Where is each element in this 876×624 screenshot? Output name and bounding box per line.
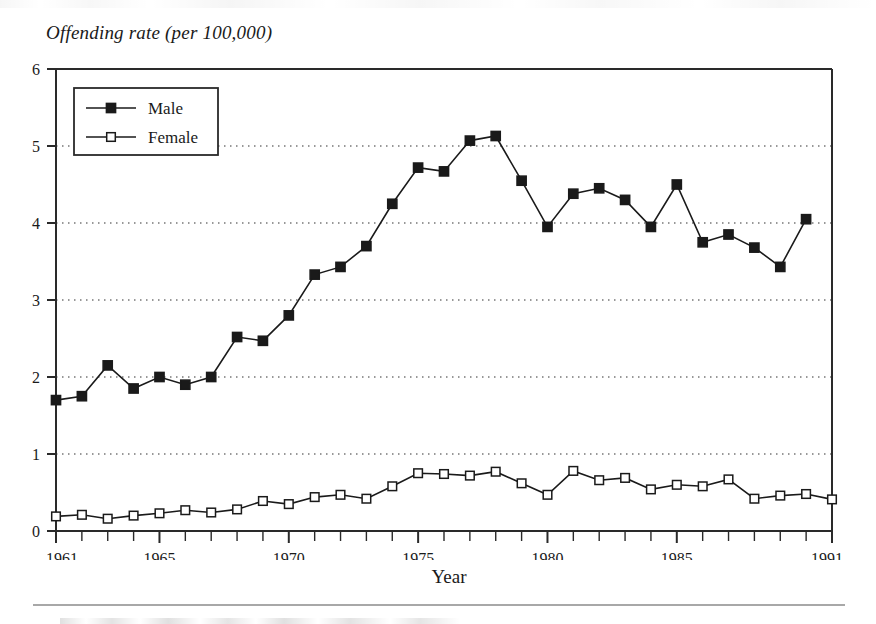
x-tick-label-1975: 1975 xyxy=(402,550,434,560)
datapoint-male-1967 xyxy=(207,372,216,381)
datapoint-female-1977 xyxy=(466,471,475,480)
datapoint-female-1975 xyxy=(414,469,423,478)
datapoint-male-1989 xyxy=(776,262,785,271)
datapoint-male-1978 xyxy=(491,131,500,140)
datapoint-female-1973 xyxy=(362,494,371,503)
series-line-male xyxy=(56,136,806,400)
x-axis-title-label: Year xyxy=(409,566,466,587)
datapoint-male-1988 xyxy=(750,243,759,252)
datapoint-female-1968 xyxy=(233,505,242,514)
x-tick-label-1965: 1965 xyxy=(143,550,175,560)
datapoint-female-1969 xyxy=(259,497,268,506)
x-axis-ticks: 1961196519701975198019851991 xyxy=(46,531,843,560)
datapoint-female-1962 xyxy=(78,511,87,520)
x-tick-label-1961: 1961 xyxy=(46,550,78,560)
legend-label-male: Male xyxy=(148,99,183,118)
datapoint-male-1986 xyxy=(698,238,707,247)
datapoint-female-1965 xyxy=(155,509,164,518)
datapoint-female-1989 xyxy=(776,491,785,500)
datapoint-male-1968 xyxy=(233,332,242,341)
datapoint-male-1969 xyxy=(258,336,267,345)
datapoint-male-1982 xyxy=(595,184,604,193)
data-series-layer xyxy=(51,131,836,523)
chart-legend: MaleFemale xyxy=(74,88,218,155)
datapoint-male-1963 xyxy=(103,361,112,370)
datapoint-male-1966 xyxy=(181,380,190,389)
datapoint-male-1977 xyxy=(465,136,474,145)
scan-artifact-bottom xyxy=(60,618,460,624)
datapoint-female-1979 xyxy=(517,479,526,488)
datapoint-male-1973 xyxy=(362,242,371,251)
datapoint-male-1964 xyxy=(129,384,138,393)
x-tick-label-1991: 1991 xyxy=(811,550,843,560)
footer-divider xyxy=(33,604,845,606)
datapoint-female-1970 xyxy=(285,500,294,509)
datapoint-female-1974 xyxy=(388,482,397,491)
datapoint-female-1976 xyxy=(440,470,449,479)
datapoint-male-1962 xyxy=(77,392,86,401)
datapoint-female-1988 xyxy=(750,494,759,503)
y-tick-label-5: 5 xyxy=(32,138,40,155)
y-tick-label-3: 3 xyxy=(32,292,40,309)
offending-rate-line-chart: 0123456 1961196519701975198019851991 Mal… xyxy=(0,0,876,560)
datapoint-female-1990 xyxy=(802,490,811,499)
datapoint-female-1987 xyxy=(724,475,733,484)
datapoint-male-1975 xyxy=(414,163,423,172)
y-tick-label-2: 2 xyxy=(32,369,40,386)
datapoint-female-1964 xyxy=(129,511,138,520)
legend-marker-male xyxy=(106,103,115,112)
datapoint-male-1980 xyxy=(543,222,552,231)
y-tick-label-0: 0 xyxy=(32,523,40,540)
datapoint-male-1984 xyxy=(646,222,655,231)
x-tick-label-1985: 1985 xyxy=(661,550,693,560)
datapoint-male-1965 xyxy=(155,372,164,381)
y-tick-label-4: 4 xyxy=(32,215,40,232)
datapoint-female-1971 xyxy=(310,493,319,502)
datapoint-male-1985 xyxy=(672,180,681,189)
datapoint-female-1980 xyxy=(543,491,552,500)
x-tick-label-1970: 1970 xyxy=(273,550,305,560)
datapoint-female-1991 xyxy=(828,495,837,504)
datapoint-male-1987 xyxy=(724,230,733,239)
datapoint-female-1978 xyxy=(491,467,500,476)
datapoint-male-1970 xyxy=(284,311,293,320)
datapoint-female-1966 xyxy=(181,506,190,515)
legend-label-female: Female xyxy=(148,128,198,147)
datapoint-female-1984 xyxy=(647,485,656,494)
datapoint-female-1986 xyxy=(698,482,707,491)
datapoint-female-1963 xyxy=(103,514,112,523)
datapoint-male-1972 xyxy=(336,262,345,271)
legend-marker-female xyxy=(107,133,116,142)
datapoint-male-1990 xyxy=(802,215,811,224)
datapoint-female-1982 xyxy=(595,476,604,485)
x-tick-label-1980: 1980 xyxy=(531,550,563,560)
gridlines xyxy=(56,146,832,454)
datapoint-male-1981 xyxy=(569,189,578,198)
datapoint-male-1971 xyxy=(310,270,319,279)
datapoint-male-1983 xyxy=(621,195,630,204)
datapoint-male-1974 xyxy=(388,199,397,208)
y-axis-ticks: 0123456 xyxy=(32,61,56,540)
datapoint-male-1961 xyxy=(51,396,60,405)
datapoint-female-1985 xyxy=(673,481,682,490)
x-axis-title: Year xyxy=(0,566,876,588)
datapoint-male-1976 xyxy=(439,167,448,176)
datapoint-female-1972 xyxy=(336,491,345,500)
datapoint-female-1967 xyxy=(207,508,216,517)
datapoint-female-1983 xyxy=(621,474,630,483)
datapoint-female-1981 xyxy=(569,467,578,476)
datapoint-female-1961 xyxy=(52,512,61,521)
y-tick-label-6: 6 xyxy=(32,61,40,78)
y-tick-label-1: 1 xyxy=(32,446,40,463)
datapoint-male-1979 xyxy=(517,176,526,185)
